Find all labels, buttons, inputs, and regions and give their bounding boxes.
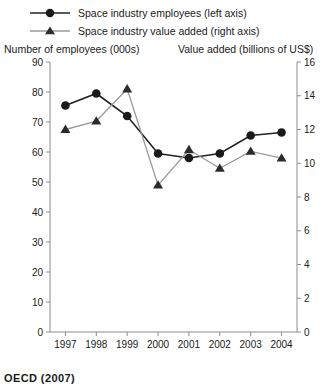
x-axis-tick-label: 2000 (147, 339, 170, 350)
right-axis-tick-label: 0 (304, 327, 310, 338)
left-axis-tick-label: 20 (32, 267, 44, 278)
legend-item: Space industry employees (left axis) (30, 7, 247, 19)
data-point-value-added (215, 163, 225, 171)
data-point-employees (92, 89, 101, 98)
right-axis: 0246810121416 (297, 57, 316, 338)
right-axis-tick-label: 10 (304, 158, 316, 169)
source-note: OECD (2007) (4, 372, 75, 384)
right-axis-tick-label: 2 (304, 293, 310, 304)
circle-marker-icon (46, 9, 54, 17)
x-axis-tick-label: 1997 (54, 339, 77, 350)
data-point-employees (61, 101, 70, 110)
legend-label: Space industry value added (right axis) (78, 25, 260, 37)
left-axis-title: Number of employees (000s) (4, 43, 139, 55)
left-axis-tick-label: 10 (32, 297, 44, 308)
data-point-employees (246, 131, 255, 140)
left-axis-tick-label: 60 (32, 147, 44, 158)
x-axis-tick-label: 1998 (85, 339, 108, 350)
data-point-employees (277, 128, 286, 137)
x-axis-tick-label: 2002 (209, 339, 232, 350)
data-point-employees (185, 154, 194, 163)
right-axis-tick-label: 8 (304, 192, 310, 203)
right-axis-tick-label: 6 (304, 225, 310, 236)
plot-area (60, 84, 286, 188)
chart-legend: Space industry employees (left axis)Spac… (30, 7, 260, 37)
left-axis-tick-label: 80 (32, 87, 44, 98)
left-axis-tick-label: 50 (32, 177, 44, 188)
legend-item: Space industry value added (right axis) (30, 25, 260, 37)
right-axis-tick-label: 16 (304, 57, 316, 68)
left-axis-tick-label: 70 (32, 117, 44, 128)
data-point-value-added (246, 147, 256, 155)
series-line-employees (65, 94, 281, 159)
left-axis-tick-label: 40 (32, 207, 44, 218)
x-axis-tick-label: 2003 (240, 339, 263, 350)
left-axis-tick-label: 0 (37, 327, 43, 338)
left-axis-tick-label: 30 (32, 237, 44, 248)
data-point-employees (216, 149, 225, 158)
right-axis-tick-label: 4 (304, 259, 310, 270)
left-axis: 0102030405060708090 (32, 57, 50, 338)
left-axis-tick-label: 90 (32, 57, 44, 68)
data-point-value-added (184, 145, 194, 153)
right-axis-tick-label: 12 (304, 124, 316, 135)
data-point-employees (154, 149, 163, 158)
legend-label: Space industry employees (left axis) (78, 7, 247, 19)
data-point-value-added (122, 84, 132, 92)
x-axis: 19971998199920002001200220032004 (50, 332, 297, 350)
right-axis-tick-label: 14 (304, 90, 316, 101)
x-axis-tick-label: 2004 (270, 339, 293, 350)
x-axis-tick-label: 2001 (178, 339, 201, 350)
x-axis-tick-label: 1999 (116, 339, 139, 350)
data-point-employees (123, 112, 132, 121)
triangle-marker-icon (45, 26, 55, 34)
right-axis-title: Value added (billions of US$) (178, 43, 313, 55)
